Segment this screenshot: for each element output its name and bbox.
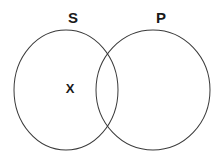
venn-circles-canvas	[0, 0, 223, 159]
venn-diagram: S P X	[0, 0, 223, 159]
set-label-p: P	[153, 10, 169, 25]
circle-set-p	[96, 30, 210, 150]
region-mark-x: X	[62, 82, 78, 95]
set-label-s: S	[65, 10, 81, 25]
